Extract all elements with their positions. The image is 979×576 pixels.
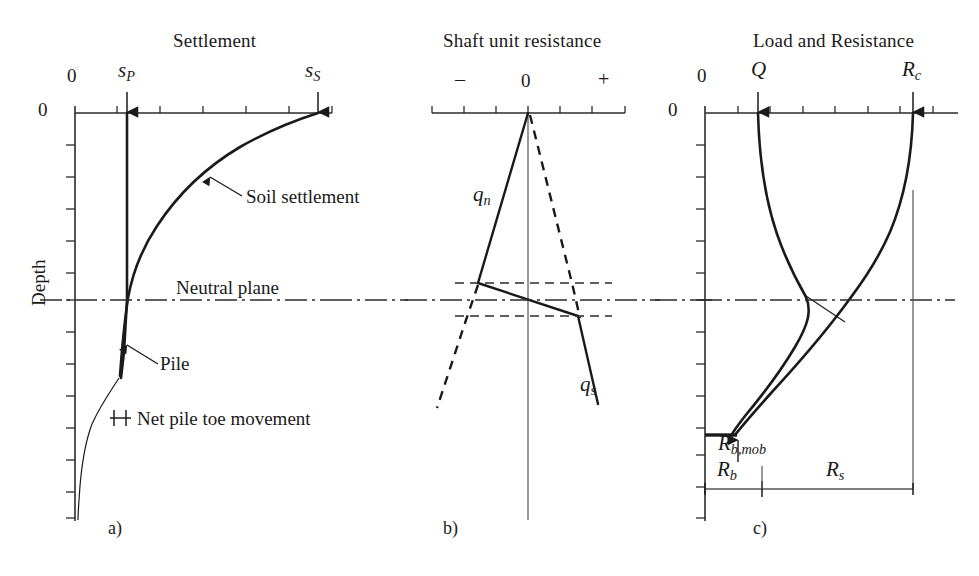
- panel-a-ss-base: s: [305, 58, 313, 82]
- panel-a-pile-leader: [127, 345, 158, 364]
- panel-b-key: b): [443, 518, 458, 539]
- panel-a-soil-settlement-annotation: Soil settlement: [246, 186, 359, 208]
- panel-b-qs-dashed-extension: [437, 285, 478, 408]
- panel-c-rc-sub: c: [915, 67, 921, 83]
- panel-c-key: c): [753, 518, 767, 539]
- panel-c-rs-label: Rs: [826, 457, 844, 484]
- figure-root: Settlement 0 0 Depth sP sS Soil settleme…: [0, 0, 979, 576]
- panel-c-q-label: Q: [751, 57, 766, 84]
- panel-b-qs-sub: s: [591, 382, 597, 398]
- panel-a-top-origin-label: 0: [67, 65, 77, 87]
- panel-c-title: Load and Resistance: [753, 30, 914, 52]
- panel-c-rc-label: Rc: [902, 57, 921, 84]
- panel-c-rc-base: R: [902, 57, 915, 81]
- panel-a-depth-ticks: [66, 145, 75, 518]
- panel-c-rbmob-label: Rb,mob: [718, 431, 766, 458]
- panel-a-left-origin-label: 0: [38, 99, 48, 121]
- panel-c-q-base: Q: [751, 57, 766, 81]
- panel-a-sp-base: s: [118, 58, 126, 82]
- panel-a-toe-movement-curve: [78, 378, 119, 520]
- panel-b-title: Shaft unit resistance: [443, 30, 601, 52]
- panel-c-left-origin-label: 0: [668, 99, 678, 121]
- panel-c-rbmob-sub: b,mob: [731, 441, 766, 457]
- panel-b-qn-sub: n: [484, 192, 491, 208]
- panel-a-toe-movement-symbol: [110, 410, 131, 426]
- panel-c-rb-base: R: [717, 457, 730, 481]
- panel-b-negative-sign: –: [455, 68, 465, 91]
- panel-b-qn-label: qn: [473, 182, 491, 209]
- panel-a-key: a): [108, 518, 122, 539]
- figure-drawing: [0, 0, 979, 576]
- panel-c-rbmob-base: R: [718, 431, 731, 455]
- panel-c-rs-sub: s: [839, 467, 845, 483]
- panel-b-drawing: [405, 106, 660, 520]
- panel-a-soil-settlement-curve: [120, 113, 318, 376]
- panel-c-depth-ticks: [696, 145, 705, 518]
- panel-a-pile-annotation: Pile: [160, 353, 190, 375]
- panel-a-ss-sub: S: [313, 68, 320, 84]
- panel-a-sp-sub: P: [126, 68, 135, 84]
- panel-b-qn-base: q: [473, 182, 484, 206]
- panel-b-qs-label: qs: [580, 372, 596, 399]
- panel-a-neutral-plane-annotation: Neutral plane: [176, 277, 279, 299]
- panel-b-zero-label: 0: [521, 70, 531, 92]
- panel-c-rs-base: R: [826, 457, 839, 481]
- panel-b-qs-base: q: [580, 372, 591, 396]
- panel-a-soil-settlement-leader: [210, 177, 242, 196]
- panel-a-drawing: [40, 92, 332, 521]
- panel-a-depth-axis-label: Depth: [28, 260, 50, 306]
- panel-a-top-ticks: [117, 106, 332, 113]
- panel-b-qn-dashed-extension: [530, 115, 580, 318]
- panel-a-sp-label: sP: [118, 58, 135, 85]
- panel-c-top-origin-label: 0: [697, 65, 707, 87]
- panel-a-toe-movement-annotation: Net pile toe movement: [137, 408, 311, 430]
- panel-b-positive-sign: +: [598, 68, 609, 91]
- panel-a-title: Settlement: [173, 30, 256, 52]
- panel-c-load-curve: [731, 113, 809, 436]
- panel-c-rb-label: Rb: [717, 457, 737, 484]
- panel-a-ss-label: sS: [305, 58, 320, 85]
- panel-c-top-ticks: [738, 106, 933, 113]
- panel-c-rb-sub: b: [730, 467, 737, 483]
